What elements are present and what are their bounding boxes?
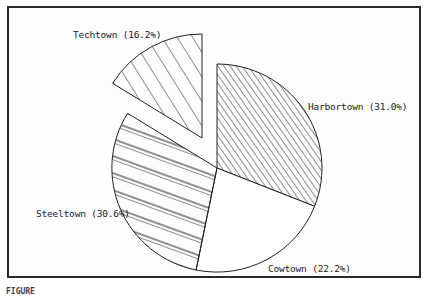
figure-caption: FIGURE	[6, 287, 35, 296]
label-steeltown: Steeltown (30.6%)	[36, 208, 130, 219]
label-techtown: Techtown (16.2%)	[73, 29, 161, 40]
pie-chart	[0, 0, 430, 296]
label-cowtown: Cowtown (22.2%)	[268, 263, 351, 274]
label-harbortown: Harbortown (31.0%)	[308, 101, 407, 112]
